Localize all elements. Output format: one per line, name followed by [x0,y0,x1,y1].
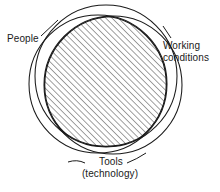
label-working-conditions: Working conditions [163,40,209,63]
label-working-conditions-line1: Working [163,40,209,52]
label-working-conditions-line2: conditions [163,52,209,64]
label-tools-line2: (technology) [0,168,220,180]
venn-diagram: People Working conditions Tools (technol… [0,0,220,192]
label-tools: Tools (technology) [0,156,220,179]
label-tools-line1: Tools [2,156,220,168]
label-people: People [7,33,39,45]
